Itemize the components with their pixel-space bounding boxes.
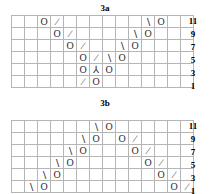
- knit-stitch-blank-cell: [155, 76, 168, 88]
- yarn-over-icon: O: [129, 145, 141, 156]
- yarn-over-cell: O: [38, 181, 51, 193]
- knit-stitch-blank-cell: [38, 121, 51, 133]
- slip-slip-knit-icon: ∖: [116, 40, 128, 51]
- knit-stitch-blank-cell: [12, 181, 25, 193]
- knit-two-together-cell: ∕: [168, 169, 181, 181]
- knit-stitch-blank-cell: [116, 28, 129, 40]
- knit-stitch-blank-cell: [64, 52, 77, 64]
- knit-two-together-cell: ∕: [90, 52, 103, 64]
- knit-two-together-cell: ∕: [77, 76, 90, 88]
- yarn-over-icon: O: [116, 133, 128, 144]
- chart-row: O⅄O: [12, 64, 194, 76]
- knit-stitch-blank-cell: [12, 157, 25, 169]
- slip-slip-knit-icon: ∖: [90, 121, 102, 132]
- knit-stitch-blank-cell: [155, 121, 168, 133]
- yarn-over-cell: O: [77, 64, 90, 76]
- knit-stitch-blank-cell: [103, 76, 116, 88]
- knit-stitch-blank-cell: [155, 181, 168, 193]
- slip-slip-knit-cell: ∖: [116, 40, 129, 52]
- knit-stitch-blank-cell: [90, 28, 103, 40]
- yarn-over-icon: O: [103, 64, 115, 75]
- row-number-label: 11: [180, 15, 206, 28]
- knit-stitch-blank-cell: [12, 133, 25, 145]
- yarn-over-cell: O: [116, 133, 129, 145]
- knit-stitch-blank-cell: [116, 145, 129, 157]
- knit-stitch-blank-cell: [155, 28, 168, 40]
- knit-stitch-blank-cell: [142, 76, 155, 88]
- slip-slip-knit-cell: ∖: [64, 145, 77, 157]
- knit-stitch-blank-cell: [142, 121, 155, 133]
- knit-stitch-blank-cell: [25, 64, 38, 76]
- yarn-over-cell: O: [51, 169, 64, 181]
- knit-stitch-blank-cell: [12, 40, 25, 52]
- slip-slip-knit-icon: ∖: [51, 157, 63, 168]
- chart-row: O∕∖O: [12, 40, 194, 52]
- knit-stitch-blank-cell: [116, 76, 129, 88]
- chart-row: ∖O: [12, 121, 194, 133]
- knit-stitch-blank-cell: [142, 52, 155, 64]
- chart-row: ∕O: [12, 76, 194, 88]
- slip-slip-knit-cell: ∖: [142, 16, 155, 28]
- row-number-labels-3b: 1197531: [180, 120, 206, 194]
- yarn-over-icon: O: [90, 76, 102, 87]
- yarn-over-icon: O: [38, 181, 50, 192]
- knit-stitch-blank-cell: [51, 133, 64, 145]
- row-number-label: 5: [180, 159, 206, 172]
- knit-stitch-blank-cell: [90, 169, 103, 181]
- knit-stitch-blank-cell: [25, 169, 38, 181]
- knit-stitch-blank-cell: [155, 52, 168, 64]
- knit-stitch-blank-cell: [25, 121, 38, 133]
- row-number-label: 7: [180, 41, 206, 54]
- knit-stitch-blank-cell: [51, 52, 64, 64]
- row-number-label: 1: [180, 185, 206, 194]
- knit-stitch-blank-cell: [142, 64, 155, 76]
- yarn-over-cell: O: [129, 145, 142, 157]
- central-double-decrease-cell: ⅄: [90, 64, 103, 76]
- knit-stitch-blank-cell: [25, 40, 38, 52]
- yarn-over-icon: O: [64, 157, 76, 168]
- yarn-over-cell: O: [103, 121, 116, 133]
- knit-stitch-blank-cell: [51, 145, 64, 157]
- knit-stitch-blank-cell: [25, 28, 38, 40]
- knit-stitch-blank-cell: [90, 181, 103, 193]
- slip-slip-knit-cell: ∖: [77, 133, 90, 145]
- knit-stitch-blank-cell: [64, 121, 77, 133]
- row-number-label: 3: [180, 172, 206, 185]
- yarn-over-cell: O: [103, 64, 116, 76]
- knit-stitch-blank-cell: [116, 121, 129, 133]
- knit-stitch-blank-cell: [103, 169, 116, 181]
- central-double-decrease-icon: ⅄: [90, 64, 102, 75]
- knit-two-together-cell: ∕: [142, 145, 155, 157]
- row-number-label: 3: [180, 67, 206, 80]
- slip-slip-knit-cell: ∖: [90, 121, 103, 133]
- knit-stitch-blank-cell: [77, 181, 90, 193]
- knit-stitch-blank-cell: [168, 64, 181, 76]
- knit-stitch-blank-cell: [90, 145, 103, 157]
- knit-stitch-blank-cell: [103, 181, 116, 193]
- knit-stitch-blank-cell: [103, 157, 116, 169]
- knit-stitch-blank-cell: [129, 181, 142, 193]
- chart-grid-3a: O∕∖OO∕∖OO∕∖OO∕∖OO⅄O∕O: [11, 15, 179, 88]
- knit-two-together-icon: ∕: [90, 52, 102, 63]
- knit-stitch-blank-cell: [51, 40, 64, 52]
- yarn-over-icon: O: [51, 28, 63, 39]
- knit-stitch-blank-cell: [25, 16, 38, 28]
- slip-slip-knit-cell: ∖: [38, 169, 51, 181]
- knit-stitch-blank-cell: [64, 133, 77, 145]
- yarn-over-icon: O: [77, 52, 89, 63]
- knit-stitch-blank-cell: [38, 52, 51, 64]
- row-number-label: 1: [180, 80, 206, 93]
- knit-two-together-icon: ∕: [168, 169, 180, 180]
- knit-stitch-blank-cell: [38, 40, 51, 52]
- knit-stitch-blank-cell: [155, 64, 168, 76]
- yarn-over-icon: O: [155, 169, 167, 180]
- yarn-over-cell: O: [64, 40, 77, 52]
- yarn-over-cell: O: [142, 28, 155, 40]
- slip-slip-knit-icon: ∖: [64, 145, 76, 156]
- knit-stitch-blank-cell: [90, 40, 103, 52]
- knit-stitch-blank-cell: [142, 181, 155, 193]
- slip-slip-knit-icon: ∖: [38, 169, 50, 180]
- row-number-labels-3a: 1197531: [180, 15, 206, 93]
- chart-row: ∖OO∕: [12, 157, 194, 169]
- yarn-over-icon: O: [142, 28, 154, 39]
